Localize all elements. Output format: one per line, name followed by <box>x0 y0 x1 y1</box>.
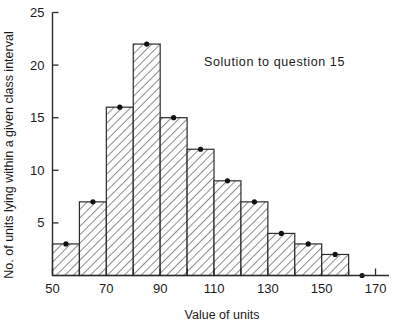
x-axis-tick-labels: 507090110130150170 <box>45 281 386 296</box>
data-point-marker <box>252 199 257 204</box>
data-point-marker <box>171 115 176 120</box>
y-tick-label: 20 <box>30 58 44 73</box>
x-tick-label: 90 <box>153 281 167 296</box>
data-point-marker <box>90 199 95 204</box>
x-tick-label: 50 <box>45 281 59 296</box>
data-point-marker <box>225 178 230 183</box>
data-point-marker <box>63 241 68 246</box>
data-point-marker <box>144 41 149 46</box>
data-point-marker <box>198 147 203 152</box>
x-axis-title: Value of units <box>185 308 260 322</box>
x-tick-label: 110 <box>204 281 225 296</box>
x-tick-label: 170 <box>365 281 387 296</box>
chart-page: 510152025 507090110130150170 Solution to… <box>0 0 401 325</box>
data-point-marker <box>333 252 338 257</box>
histogram-bar <box>133 44 160 275</box>
histogram-bar <box>106 107 133 275</box>
y-axis-title: No. of units lying within a given class … <box>2 31 16 278</box>
histogram-bar <box>214 181 241 276</box>
y-axis-tick-labels: 510152025 <box>30 5 44 230</box>
bar-series <box>53 44 349 275</box>
y-tick-label: 25 <box>30 5 44 20</box>
histogram-bar <box>160 118 187 276</box>
histogram-chart: 510152025 507090110130150170 Solution to… <box>0 0 401 325</box>
y-tick-label: 15 <box>30 110 44 125</box>
histogram-bar <box>241 202 268 276</box>
histogram-bar <box>295 244 322 276</box>
data-point-marker <box>117 105 122 110</box>
histogram-bar <box>53 244 80 276</box>
y-tick-label: 10 <box>30 163 44 178</box>
x-tick-label: 70 <box>99 281 113 296</box>
histogram-bar <box>79 202 106 276</box>
data-point-marker <box>279 231 284 236</box>
y-axis-ticks <box>53 13 59 223</box>
x-tick-label: 150 <box>311 281 333 296</box>
histogram-bar <box>187 149 214 275</box>
x-tick-label: 130 <box>257 281 279 296</box>
data-point-marker <box>306 241 311 246</box>
chart-annotation: Solution to question 15 <box>204 55 345 69</box>
histogram-bar <box>322 254 349 275</box>
y-tick-label: 5 <box>37 215 44 230</box>
histogram-bar <box>268 233 295 275</box>
